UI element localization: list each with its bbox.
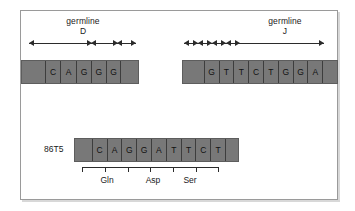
- j-base-g1: G: [205, 61, 220, 83]
- codon-tick-2: [128, 167, 129, 172]
- germline-d-title: germline: [66, 16, 99, 26]
- germline-j-strip: G T T C T G G A: [182, 60, 338, 84]
- germline-d-strip: C A G G G: [21, 60, 139, 84]
- sequence-alignment-figure: germline D germline J C A G G G: [0, 0, 355, 211]
- s-cell-pad-right: [226, 139, 238, 161]
- germline-j-heading: germline J: [240, 16, 330, 36]
- arrowhead-right-j-d: [235, 40, 240, 46]
- germline-j-title: germline: [268, 16, 301, 26]
- s-base-a2: A: [152, 139, 167, 161]
- arrowhead-right-d-end: [131, 40, 136, 46]
- germline-j-arrow-line: [184, 43, 324, 44]
- d-base-g1: G: [77, 61, 92, 83]
- j-base-g2: G: [279, 61, 294, 83]
- arrowhead-left-j-a: [184, 40, 189, 46]
- germline-d-arrow-rail: [29, 39, 136, 48]
- j-base-c: C: [249, 61, 264, 83]
- codon-ruler: [82, 167, 219, 173]
- sample-strip: C A G G A T T C T: [74, 138, 239, 162]
- germline-j-arrow-rail: [184, 39, 324, 48]
- codon-tick-1: [105, 167, 106, 172]
- j-cell-pad-left: [183, 61, 205, 83]
- arrowhead-left-j-c: [212, 40, 217, 46]
- arrowhead-left-j-b: [198, 40, 203, 46]
- j-base-t1: T: [220, 61, 235, 83]
- germline-j-segment: J: [240, 26, 330, 36]
- j-base-t3: T: [264, 61, 279, 83]
- s-base-t2: T: [182, 139, 197, 161]
- s-base-c1: C: [93, 139, 108, 161]
- d-base-a: A: [61, 61, 77, 83]
- codon-tick-5: [196, 167, 197, 172]
- arrowhead-right-j-end: [319, 40, 324, 46]
- s-base-g2: G: [137, 139, 152, 161]
- d-base-c: C: [46, 61, 62, 83]
- s-cell-pad-left: [75, 139, 93, 161]
- codon-label-gln: Gln: [87, 175, 127, 185]
- j-base-a: A: [308, 61, 323, 83]
- arrowhead-left-j-d: [226, 40, 231, 46]
- arrowhead-left-d-start: [29, 40, 34, 46]
- d-base-g2: G: [92, 61, 107, 83]
- s-base-t1: T: [167, 139, 182, 161]
- j-base-g3: G: [294, 61, 309, 83]
- arrowhead-left-d-mid2: [91, 40, 96, 46]
- germline-d-segment: D: [38, 26, 128, 36]
- j-base-t2: T: [234, 61, 249, 83]
- codon-tick-0: [82, 167, 83, 172]
- d-cell-pad-right: [121, 61, 138, 83]
- s-base-t3: T: [211, 139, 226, 161]
- sample-label-86t5: 86T5: [44, 144, 63, 154]
- codon-label-asp: Asp: [133, 175, 173, 185]
- s-base-a1: A: [108, 139, 123, 161]
- j-cell-pad-right: [323, 61, 337, 83]
- codon-tick-6: [218, 167, 219, 172]
- s-base-c2: C: [196, 139, 211, 161]
- arrowhead-left-d-mid4: [117, 40, 122, 46]
- germline-d-heading: germline D: [38, 16, 128, 36]
- codon-tick-4: [173, 167, 174, 172]
- d-base-g3: G: [107, 61, 122, 83]
- codon-tick-3: [150, 167, 151, 172]
- s-base-g1: G: [122, 139, 137, 161]
- d-cell-pad-left: [22, 61, 46, 83]
- codon-label-ser: Ser: [170, 175, 210, 185]
